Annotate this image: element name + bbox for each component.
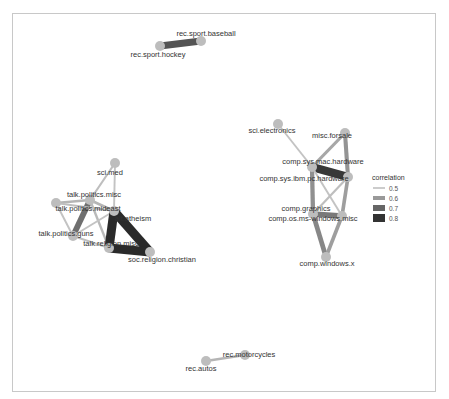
legend-swatch <box>373 196 385 200</box>
node-label: misc.forsale <box>312 131 352 140</box>
edges-layer <box>56 41 348 361</box>
node-label: talk.politics.guns <box>38 229 93 238</box>
legend-swatch <box>373 205 385 211</box>
node-label: comp.sys.ibm.pc.hardware <box>259 174 348 183</box>
node-label: talk.politics.mideast <box>55 204 121 213</box>
node-label: talk.religion.misc <box>83 239 139 248</box>
edge-talk.politics.misc--talk.politics.mideast <box>56 200 90 203</box>
node-label: rec.motorcycles <box>223 350 276 359</box>
legend-swatch <box>373 214 385 222</box>
node-label: rec.sport.baseball <box>176 29 236 38</box>
edge-rec.sport.hockey--rec.sport.baseball <box>160 41 201 46</box>
legend-label: 0.5 <box>389 185 398 192</box>
legend: correlation 0.50.60.70.8 <box>372 174 405 222</box>
node-label: alt.atheism <box>115 214 151 223</box>
node-label: rec.sport.hockey <box>130 50 185 59</box>
node-label: comp.os.ms-windows.misc <box>268 214 357 223</box>
legend-items: 0.50.60.70.8 <box>373 185 398 223</box>
node-sci.med <box>110 158 120 168</box>
node-label: comp.sys.mac.hardware <box>282 157 363 166</box>
node-label: sci.med <box>97 168 123 177</box>
node-label: soc.religion.christian <box>128 255 196 264</box>
legend-title: correlation <box>372 174 405 181</box>
nodes-layer <box>51 36 353 366</box>
network-graph: rec.sport.baseballrec.sport.hockeysci.me… <box>0 0 449 399</box>
node-label: comp.windows.x <box>299 259 354 268</box>
node-label: talk.politics.misc <box>67 190 121 199</box>
node-label: sci.electronics <box>248 126 295 135</box>
legend-label: 0.8 <box>389 215 398 222</box>
node-label: rec.autos <box>186 364 217 373</box>
legend-swatch <box>373 187 385 189</box>
edge-talk.religion.misc--soc.religion.christian <box>109 248 150 252</box>
legend-label: 0.7 <box>389 205 398 212</box>
legend-label: 0.6 <box>389 195 398 202</box>
node-label: comp.graphics <box>282 204 331 213</box>
